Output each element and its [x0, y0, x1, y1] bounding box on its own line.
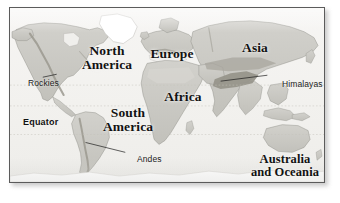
label-asia: Asia: [228, 41, 282, 55]
label-rockies: Rockies: [28, 78, 59, 88]
label-north-america: North America: [65, 44, 149, 72]
label-equator: Equator: [23, 117, 58, 127]
sahara-highland: [147, 67, 195, 83]
label-africa: Africa: [150, 90, 216, 104]
label-himalayas: Himalayas: [282, 79, 323, 89]
map-frame: North America South America Europe Afric…: [9, 7, 325, 183]
label-australia-and-oceania: Australia and Oceania: [232, 153, 325, 179]
label-andes: Andes: [137, 154, 162, 164]
label-south-america: South America: [86, 106, 170, 134]
world-map-figure: North America South America Europe Afric…: [0, 0, 340, 203]
label-europe: Europe: [140, 47, 204, 61]
